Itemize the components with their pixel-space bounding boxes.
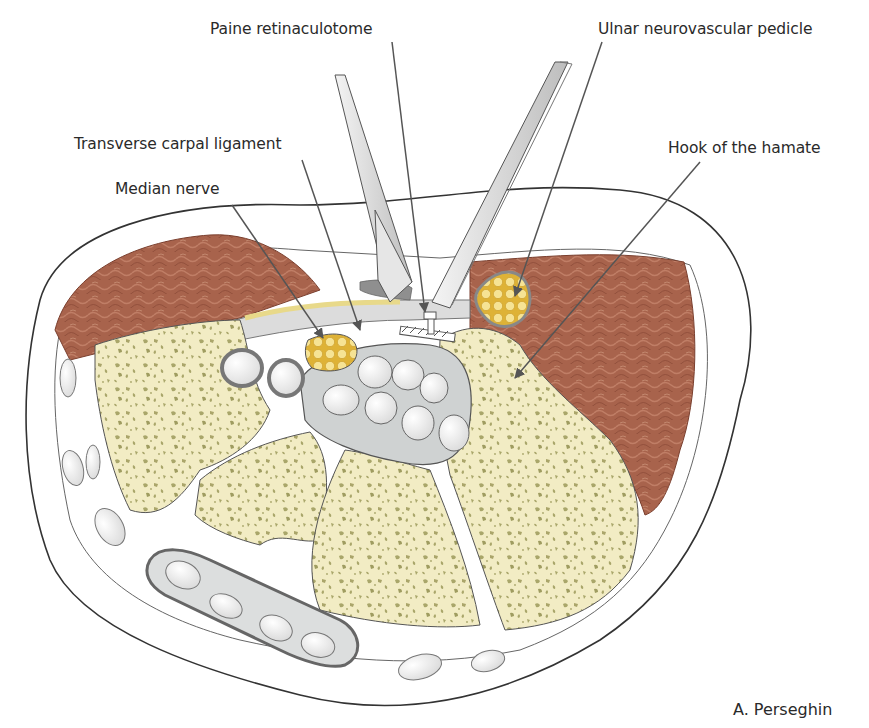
label-median-nerve: Median nerve	[115, 180, 220, 198]
artist-credit: A. Perseghin	[733, 700, 832, 719]
fpl-tendon	[269, 360, 303, 396]
label-paine-retinaculotome: Paine retinaculotome	[210, 20, 372, 38]
label-transverse-carpal-ligament: Transverse carpal ligament	[74, 135, 281, 153]
label-hook-of-the-hamate: Hook of the hamate	[668, 139, 821, 157]
wrist-cross-section-diagram	[0, 0, 869, 728]
fcr-tendon	[222, 350, 262, 386]
label-ulnar-neurovascular-pedicle: Ulnar neurovascular pedicle	[598, 20, 812, 38]
median-nerve	[305, 334, 357, 371]
